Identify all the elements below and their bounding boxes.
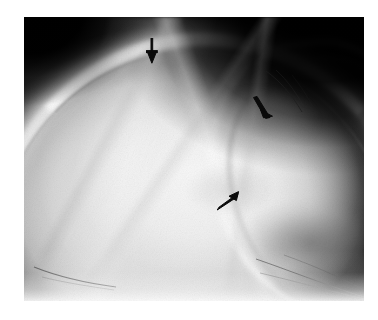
- page-margin-left: [0, 0, 24, 320]
- page-margin-top: [0, 0, 378, 17]
- page-margin-bottom: [0, 301, 378, 320]
- figure-page: [0, 0, 378, 320]
- annotation-arrow-3-icon: [216, 190, 240, 212]
- page-margin-right: [364, 0, 378, 320]
- annotation-arrow-1-icon: [143, 38, 161, 64]
- annotation-arrow-2-icon: [251, 96, 275, 120]
- radiograph-image: [24, 17, 364, 301]
